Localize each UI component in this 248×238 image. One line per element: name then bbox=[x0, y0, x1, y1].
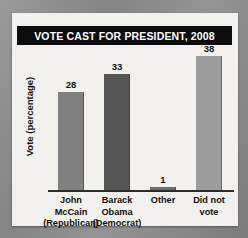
bar-4: 38 bbox=[196, 49, 222, 191]
bar-value-label: 28 bbox=[58, 79, 84, 90]
x-label-4: Did notvote bbox=[164, 195, 248, 218]
bar-2: 33 bbox=[104, 49, 130, 191]
x-axis-line bbox=[48, 190, 234, 192]
y-axis-label: Vote (percentage) bbox=[24, 69, 35, 165]
x-label-line: Did not bbox=[164, 195, 248, 207]
bar-rect bbox=[104, 74, 130, 191]
bar-3: 1 bbox=[150, 49, 176, 191]
x-axis-tick-labels: JohnMcCain(Republican)BarackObama(Democr… bbox=[38, 195, 238, 238]
page-title: VOTE CAST FOR PRESIDENT, 2008 bbox=[34, 30, 215, 42]
bar-value-label: 33 bbox=[104, 61, 130, 72]
bars-region: 2833138 bbox=[48, 49, 232, 191]
x-label-line: (Democrat) bbox=[72, 218, 162, 230]
bar-1: 28 bbox=[58, 49, 84, 191]
bar-value-label: 1 bbox=[150, 174, 176, 185]
bar-value-label: 38 bbox=[196, 43, 222, 54]
chart-card: VOTE CAST FOR PRESIDENT, 2008 Vote (perc… bbox=[12, 13, 238, 226]
bar-rect bbox=[58, 92, 84, 191]
x-label-line: vote bbox=[164, 207, 248, 219]
bar-rect bbox=[196, 56, 222, 191]
x-label-line: Obama bbox=[72, 207, 162, 219]
plot-area: Vote (percentage) 2833138 JohnMcCain(Rep… bbox=[12, 49, 238, 226]
